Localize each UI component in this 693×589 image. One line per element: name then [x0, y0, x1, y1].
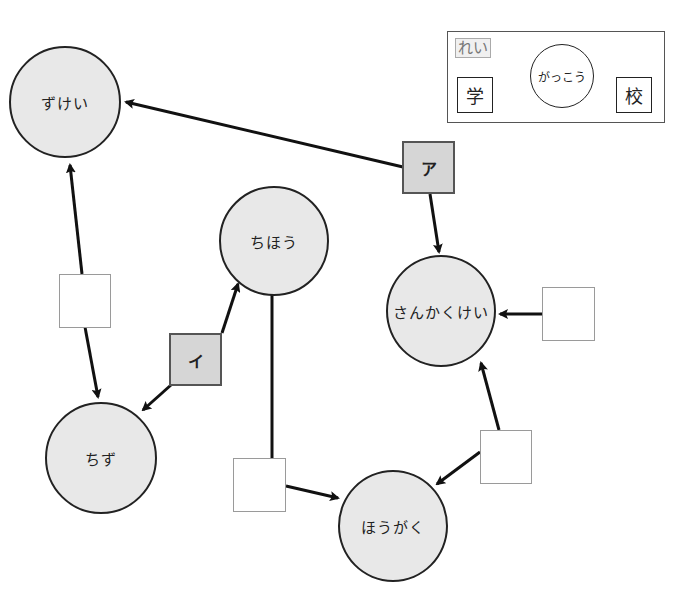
answer-box-zukei-chizu[interactable]: [59, 274, 111, 328]
label-box-i: イ: [169, 333, 222, 386]
node-chihou: ちほう: [219, 186, 329, 296]
example-tag: れい: [455, 38, 491, 58]
arrow-i-to-chizu: [143, 385, 171, 410]
node-chizu: ちず: [45, 402, 157, 514]
node-sankakukei: さんかくけい: [386, 255, 496, 367]
answer-box-chihou-hougaku[interactable]: [233, 458, 286, 512]
arrow-box4-to-hougaku: [437, 452, 480, 484]
node-hougaku: ほうがく: [338, 470, 448, 582]
arrow-box4-to-sankakukei: [481, 363, 499, 430]
node-zukei: ずけい: [9, 46, 121, 158]
arrow-box1-to-chizu: [85, 327, 98, 397]
arrow-box3-to-hougaku: [286, 486, 338, 498]
example-reading-circle: がっこう: [530, 44, 594, 108]
answer-box-sankakukei[interactable]: [542, 287, 595, 341]
arrow-a-to-zukei: [126, 102, 403, 167]
label-box-a: ア: [402, 141, 455, 194]
answer-box-hougaku-sankakukei[interactable]: [480, 430, 532, 484]
arrow-i-to-chihou: [222, 284, 238, 333]
example-kanji-left: 学: [457, 77, 493, 113]
kanji-concept-map: れい 学 がっこう 校 ずけい ちほう さんかくけい ちず ほうがく ア イ: [0, 0, 693, 589]
arrow-a-to-sankakukei: [430, 194, 439, 252]
arrow-box1-to-zukei: [70, 165, 82, 274]
example-kanji-right: 校: [616, 77, 652, 113]
example-panel: れい 学 がっこう 校: [447, 31, 665, 123]
